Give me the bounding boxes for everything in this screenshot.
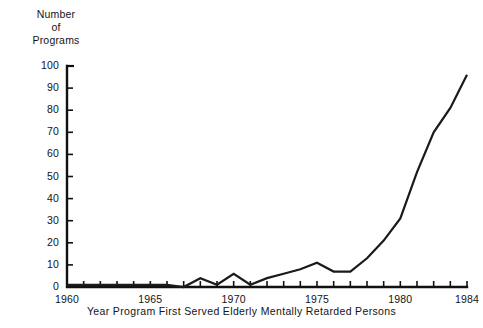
x-axis-tick-label: 1970	[214, 293, 254, 305]
line-chart-plot	[0, 0, 483, 328]
y-axis-tick-label: 50	[33, 170, 59, 182]
x-axis-tick-label: 1980	[380, 293, 420, 305]
x-axis-tick-label: 1975	[297, 293, 337, 305]
y-axis-tick-label: 10	[33, 258, 59, 270]
y-axis-tick-label: 70	[33, 125, 59, 137]
y-axis-title-line-3: Programs	[20, 34, 92, 47]
x-axis-title: Year Program First Served Elderly Mental…	[0, 305, 483, 318]
y-axis-tick-label: 30	[33, 214, 59, 226]
y-axis-title: Number of Programs	[20, 8, 92, 47]
y-axis-title-line-2: of	[20, 21, 92, 34]
axis-spines	[67, 66, 467, 287]
x-axis-tick-label: 1965	[130, 293, 170, 305]
series-number-of-programs	[67, 75, 467, 287]
chart-axes	[67, 66, 467, 287]
data-series-line	[67, 75, 467, 287]
y-axis-tick-label: 90	[33, 81, 59, 93]
y-axis-title-line-1: Number	[20, 8, 92, 21]
x-axis-tick-label: 1960	[47, 293, 87, 305]
y-axis-tick-label: 40	[33, 192, 59, 204]
y-axis-tick-label: 80	[33, 103, 59, 115]
chart-figure: Number of Programs 010203040506070809010…	[0, 0, 483, 328]
x-axis-tick-label: 1984	[447, 293, 483, 305]
y-axis-tick-label: 100	[33, 59, 59, 71]
y-axis-tick-label: 20	[33, 236, 59, 248]
y-axis-tick-label: 60	[33, 147, 59, 159]
y-axis-tick-label: 0	[33, 280, 59, 292]
